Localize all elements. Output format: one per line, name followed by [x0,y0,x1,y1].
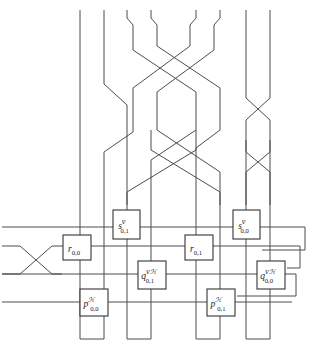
gate-box-p01[interactable]: pℋ0,1 [207,289,235,316]
gate-box-p00[interactable]: pℋ0,0 [80,289,108,316]
wire-path-cross-a [151,130,220,205]
wire-path-cross-d [246,140,270,205]
gate-box-s01[interactable]: sᴠ0,1 [113,210,140,239]
gate-box-r00[interactable]: r0,0 [63,235,91,260]
circuit-diagram-canvas: sᴠ0,1 sᴠ0,0 r0,0 r0,1 qᴠℋ0,1 qᴠℋ0,0 [0,0,314,346]
wire-path-8 [246,10,270,339]
gate-box-q00[interactable]: qᴠℋ0,0 [257,261,285,289]
gate-rect-s01[interactable] [113,210,140,239]
left-crossing-group [2,246,62,274]
circuit-svg: sᴠ0,1 sᴠ0,0 r0,0 r0,1 qᴠℋ0,1 qᴠℋ0,0 [0,0,314,346]
wire-path-cross-c [246,140,270,205]
gate-box-s00[interactable]: sᴠ0,0 [233,210,260,239]
wire-path-7 [246,10,270,339]
wire-path-5 [104,10,196,339]
crossing-line-down [2,246,62,274]
crossing-line-up [2,246,62,274]
wire-path-cross-b [127,130,196,205]
gate-rect-s00[interactable] [233,210,260,239]
gate-box-r01[interactable]: r0,1 [185,235,213,260]
wire-path-3 [127,10,196,339]
gate-box-q01[interactable]: qᴠℋ0,1 [138,261,166,289]
